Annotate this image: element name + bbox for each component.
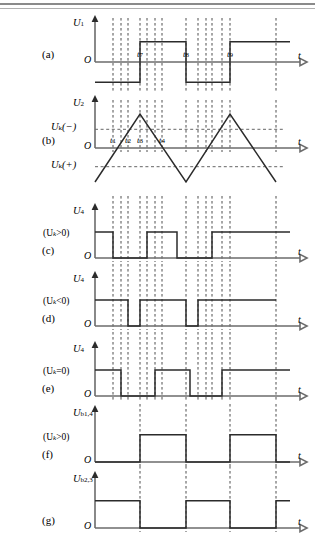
condition-label-c: (Uk>0) [43,228,69,238]
y-axis-label-a: U1 [73,17,84,28]
panel-a: (a)U1Ott7t8t9 [0,18,315,96]
time-mark-b-1: t1 [110,135,116,145]
panel-g: (g)Ub2,3Ot [0,466,315,560]
panel-tag-c: (c) [42,244,54,256]
origin-label-b: O [84,140,91,151]
panel-tag-b: (b) [42,134,55,146]
panel-tag-f: (f) [42,448,53,460]
time-mark-a-9: t9 [227,49,233,59]
y-axis-label-d: U4 [73,273,84,284]
y-axis-label-c: U4 [73,205,84,216]
origin-label-c: O [84,250,91,261]
y-axis-label-f: Ub1,4 [73,407,93,418]
time-axis-label-d: t [298,314,301,325]
time-mark-b-2: t2 [125,135,131,145]
top-border-rule-2 [0,8,315,9]
time-axis-label-c: t [298,246,301,257]
time-mark-b-4: t4 [159,135,165,145]
panel-tag-g: (g) [42,514,55,526]
top-border-rule-1 [0,3,315,5]
time-mark-a-8: t8 [183,49,189,59]
time-mark-b-3: t3 [137,135,143,145]
condition-label-f: (Uk>0) [43,432,69,442]
time-axis-label-a: t [298,50,301,61]
condition-label-e: (Uk=0) [43,366,69,376]
panel-b: (b)U2OtUk(−)Uk(+)t1t2t3t4 [0,100,315,182]
panel-tag-e: (e) [42,382,54,394]
panel-tag-a: (a) [42,48,54,60]
origin-label-d: O [84,318,91,329]
time-mark-a-7: t7 [137,49,143,59]
origin-label-g: O [84,520,91,531]
panel-tag-d: (d) [42,312,55,324]
time-axis-label-g: t [298,516,301,527]
time-axis-label-e: t [298,384,301,395]
origin-label-a: O [84,54,91,65]
condition-label-d: (Uk<0) [43,296,69,306]
origin-label-e: O [84,388,91,399]
time-axis-label-b: t [298,136,301,147]
y-axis-label-g: Ub2,3 [73,473,93,484]
origin-label-f: O [84,454,91,465]
y-axis-label-b: U2 [73,97,84,108]
time-axis-label-f: t [298,450,301,461]
y-axis-label-e: U4 [73,343,84,354]
threshold-low-label: Uk(+) [51,159,76,170]
threshold-high-label: Uk(−) [51,121,76,132]
